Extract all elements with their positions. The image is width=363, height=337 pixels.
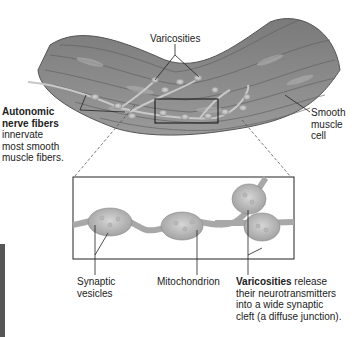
label-varicosities-desc-1: release — [292, 276, 328, 287]
label-varicosities-bold: Varicosities — [236, 276, 292, 287]
label-autonomic-nerve-fibers: Autonomic nerve fibers innervate most sm… — [2, 106, 64, 164]
label-smooth-3: cell — [311, 130, 345, 142]
page-edge-tab — [0, 244, 5, 337]
label-smooth-1: Smooth — [311, 107, 345, 119]
label-autonomic-bold-1: Autonomic — [2, 106, 64, 118]
label-autonomic-desc-2: most smooth — [2, 141, 64, 153]
label-varicosities-desc-2: their neurotransmitters — [236, 288, 341, 300]
smooth-muscle-innervation-diagram: Varicosities Autonomic nerve fibers inne… — [0, 0, 363, 337]
label-autonomic-bold-2: nerve fibers — [2, 118, 64, 130]
label-smooth-2: muscle — [311, 119, 345, 131]
label-varicosities-top: Varicosities — [150, 33, 200, 45]
label-varicosities-release: Varicosities release their neurotransmit… — [236, 276, 341, 322]
label-varicosities-desc-3: into a wide synaptic — [236, 299, 341, 311]
label-smooth-muscle-cell: Smooth muscle cell — [311, 107, 345, 142]
label-autonomic-desc-3: muscle fibers. — [2, 152, 64, 164]
label-synaptic-1: Synaptic — [77, 276, 115, 288]
label-varicosities-desc-4: cleft (a diffuse junction). — [236, 311, 341, 323]
label-autonomic-desc-1: innervate — [2, 129, 64, 141]
label-mitochondrion: Mitochondrion — [157, 276, 220, 288]
label-synaptic-2: vesicles — [77, 288, 115, 300]
label-synaptic-vesicles: Synaptic vesicles — [77, 276, 115, 299]
